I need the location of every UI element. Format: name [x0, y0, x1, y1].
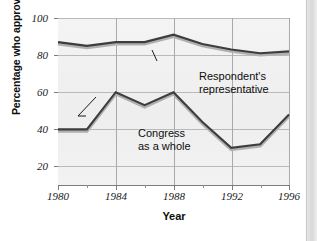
congress-annotation: Congress as a whole	[138, 127, 191, 152]
y-tick-label-60: 60	[8, 86, 48, 98]
page-edge-rule	[306, 0, 307, 241]
y-tick-label-80: 80	[8, 49, 48, 61]
respondent-annotation: Respondent's representative	[199, 70, 269, 95]
x-tick-label-1996: 1996	[265, 190, 313, 202]
x-tick-label-1980: 1980	[34, 190, 82, 202]
congress-annotation-line2: as a whole	[138, 140, 191, 153]
x-tick-1982	[87, 185, 88, 188]
x-tick-label-1984: 1984	[92, 190, 140, 202]
y-tick-label-20: 20	[8, 160, 48, 172]
x-tick-label-1992: 1992	[208, 190, 256, 202]
series-layer	[58, 18, 290, 185]
congress-annotation-line1: Congress	[138, 127, 191, 140]
x-tick-label-1988: 1988	[150, 190, 198, 202]
x-tick-1994	[261, 185, 262, 188]
x-tick-1990	[203, 185, 204, 188]
y-tick-label-100: 100	[8, 12, 48, 24]
y-tick-label-40: 40	[8, 123, 48, 135]
congress-leader-line	[78, 97, 96, 116]
plot-area: Respondent's representative Congress as …	[58, 18, 290, 185]
respondent-annotation-line1: Respondent's	[199, 70, 269, 83]
x-tick-1986	[145, 185, 146, 188]
respondent-leader-line	[152, 50, 157, 61]
respondent-annotation-line2: representative	[199, 83, 269, 96]
chart-figure: Percentage who approve 100 80 60 40 20	[0, 0, 317, 241]
x-axis-title: Year	[58, 210, 290, 222]
